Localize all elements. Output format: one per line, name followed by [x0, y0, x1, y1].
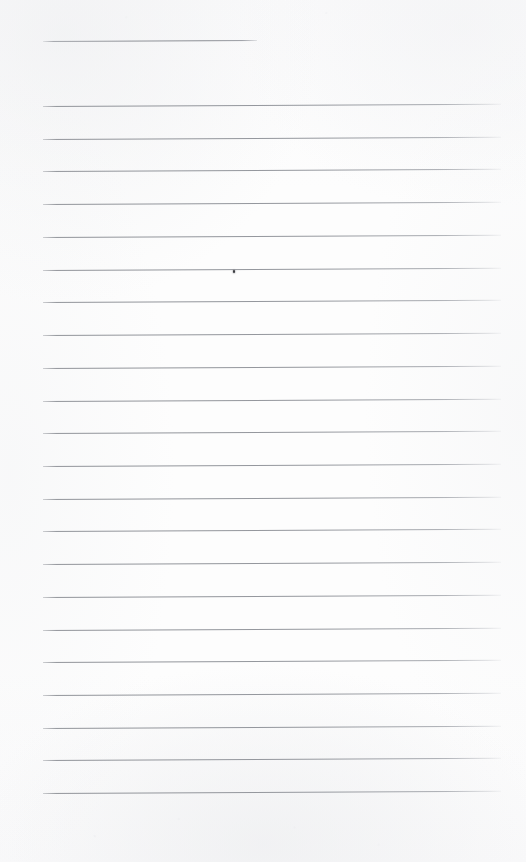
- ruled-line: [43, 562, 501, 565]
- ruled-line: [43, 300, 501, 303]
- ruled-line: [43, 693, 501, 696]
- ruled-line: [43, 366, 501, 369]
- ruled-line: [43, 758, 501, 761]
- ruled-line: [43, 595, 501, 598]
- ruled-line: [43, 464, 501, 467]
- ruled-line: [43, 529, 501, 532]
- ruled-line: [43, 660, 501, 663]
- ruled-line: [43, 333, 501, 336]
- ruled-line: [43, 104, 501, 107]
- ruled-line: [43, 136, 501, 139]
- ruled-line: [43, 235, 501, 238]
- ruled-line: [43, 725, 501, 728]
- ruled-line: [43, 398, 501, 401]
- ruled-line: [43, 431, 501, 434]
- ruled-line: [43, 627, 501, 630]
- scanned-page: [0, 0, 526, 862]
- ruled-line: [43, 496, 501, 499]
- ruled-line: [43, 169, 501, 172]
- ruled-line: [43, 267, 501, 270]
- ink-dot-mark: [233, 270, 235, 273]
- ruled-line: [43, 791, 501, 794]
- title-rule: [43, 40, 257, 42]
- ruled-line: [43, 202, 501, 205]
